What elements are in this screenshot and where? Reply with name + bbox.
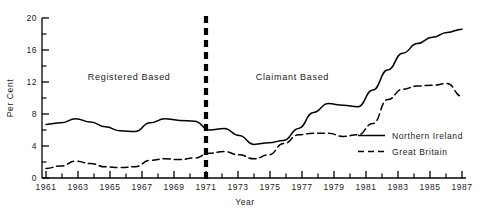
region-annotation: Registered Based	[88, 72, 171, 82]
x-tick-labels: 1961196319651967196919711973197519771979…	[36, 182, 473, 192]
x-tick-label: 1983	[388, 182, 409, 192]
legend-label-great-britain: Great Britain	[392, 147, 448, 157]
x-tick-label: 1967	[132, 182, 153, 192]
y-tick-label: 12	[27, 77, 37, 87]
x-tick-label: 1965	[100, 182, 121, 192]
x-tick-label: 1981	[356, 182, 377, 192]
x-tick-label: 1975	[260, 182, 281, 192]
x-tick-group	[46, 171, 462, 178]
x-tick-label: 1987	[452, 182, 473, 192]
y-tick-label: 8	[32, 109, 37, 119]
x-tick-label: 1961	[36, 182, 57, 192]
x-tick-label: 1985	[420, 182, 441, 192]
y-tick-label: 4	[32, 141, 37, 151]
x-tick-label: 1977	[292, 182, 313, 192]
legend-label-northern-ireland: Northern Ireland	[392, 131, 463, 141]
x-tick-label: 1971	[196, 182, 217, 192]
x-tick-label: 1973	[228, 182, 249, 192]
region-annotation: Claimant Based	[256, 72, 329, 82]
y-tick-labels: 048121620	[27, 13, 37, 183]
x-tick-label: 1963	[68, 182, 89, 192]
chart-container: 048121620 196119631965196719691971197319…	[0, 0, 481, 216]
y-tick-label: 16	[27, 45, 37, 55]
legend: Northern Ireland Great Britain	[358, 131, 463, 157]
x-tick-label: 1969	[164, 182, 185, 192]
y-tick-label: 20	[27, 13, 37, 23]
y-tick-group	[42, 18, 49, 178]
unemployment-rate-line-chart: 048121620 196119631965196719691971197319…	[0, 0, 481, 216]
series-line-northern-ireland	[46, 29, 462, 144]
y-axis-title: Per Cent	[5, 79, 15, 117]
x-axis-title: Year	[235, 197, 255, 207]
x-tick-label: 1979	[324, 182, 345, 192]
region-annotations: Registered BasedClaimant Based	[88, 72, 329, 82]
